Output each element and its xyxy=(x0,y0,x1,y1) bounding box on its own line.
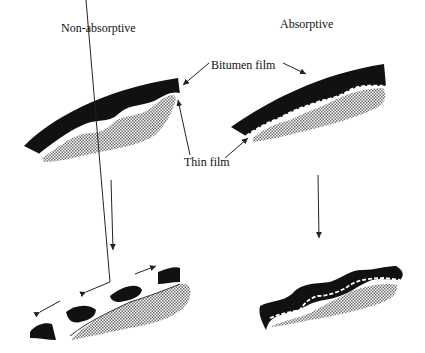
right-bottom-drawing xyxy=(259,266,402,330)
diagram-canvas xyxy=(0,0,425,353)
label-bitumen-film: Bitumen film xyxy=(211,59,275,71)
label-thin-film: Thin film xyxy=(184,156,230,168)
left-top-drawing xyxy=(24,78,180,162)
process-arrow-left xyxy=(111,180,113,250)
bitumen-droplet-1 xyxy=(30,323,56,340)
panel-title-absorptive: Absorptive xyxy=(280,18,333,30)
process-arrow-right xyxy=(318,175,319,238)
bitumen-droplet-2 xyxy=(66,306,96,323)
bitumen-droplet-4 xyxy=(158,267,180,284)
right-top-drawing xyxy=(231,64,386,142)
left-bottom-drawing xyxy=(30,0,190,340)
panel-title-non-absorptive: Non-absorptive xyxy=(61,22,136,34)
